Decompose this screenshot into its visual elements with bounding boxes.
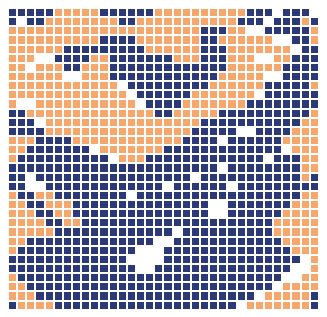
mosaic-cell xyxy=(54,99,63,108)
mosaic-cell xyxy=(63,273,72,282)
mosaic-cell xyxy=(301,26,310,35)
mosaic-cell xyxy=(17,145,26,154)
mosaic-cell xyxy=(282,255,291,264)
mosaic-cell xyxy=(127,200,136,209)
mosaic-cell xyxy=(145,173,154,182)
mosaic-cell xyxy=(237,63,246,72)
mosaic-cell xyxy=(145,26,154,35)
mosaic-cell xyxy=(81,255,90,264)
mosaic-cell xyxy=(182,163,191,172)
mosaic-cell xyxy=(99,109,108,118)
mosaic-cell xyxy=(35,163,44,172)
mosaic-cell xyxy=(163,246,172,255)
mosaic-cell xyxy=(227,35,236,44)
mosaic-cell xyxy=(45,90,54,99)
mosaic-cell xyxy=(282,35,291,44)
mosaic-cell xyxy=(227,255,236,264)
mosaic-cell xyxy=(35,237,44,246)
mosaic-cell xyxy=(209,35,218,44)
mosaic-cell xyxy=(273,17,282,26)
mosaic-cell xyxy=(282,200,291,209)
mosaic-cell xyxy=(255,45,264,54)
mosaic-cell xyxy=(45,218,54,227)
mosaic-cell xyxy=(200,8,209,17)
mosaic-cell xyxy=(45,45,54,54)
mosaic-cell xyxy=(136,26,145,35)
mosaic-cell xyxy=(282,282,291,291)
mosaic-cell xyxy=(218,26,227,35)
mosaic-cell xyxy=(17,81,26,90)
mosaic-cell xyxy=(99,200,108,209)
mosaic-cell xyxy=(90,145,99,154)
mosaic-cell xyxy=(163,99,172,108)
mosaic-cell xyxy=(63,282,72,291)
mosaic-cell xyxy=(109,264,118,273)
mosaic-cell xyxy=(227,264,236,273)
mosaic-cell xyxy=(255,273,264,282)
mosaic-cell xyxy=(264,163,273,172)
mosaic-cell xyxy=(136,191,145,200)
mosaic-cell xyxy=(200,264,209,273)
mosaic-cell xyxy=(90,136,99,145)
mosaic-cell xyxy=(227,273,236,282)
mosaic-cell xyxy=(182,173,191,182)
mosaic-cell xyxy=(282,109,291,118)
mosaic-cell xyxy=(81,81,90,90)
mosaic-cell xyxy=(45,154,54,163)
mosaic-cell xyxy=(282,154,291,163)
mosaic-cell xyxy=(301,145,310,154)
mosaic-cell xyxy=(109,72,118,81)
mosaic-cell xyxy=(63,81,72,90)
mosaic-cell xyxy=(109,255,118,264)
mosaic-cell xyxy=(99,81,108,90)
mosaic-cell xyxy=(291,63,300,72)
mosaic-cell xyxy=(99,255,108,264)
mosaic-cell xyxy=(291,264,300,273)
mosaic-cell xyxy=(246,118,255,127)
mosaic-cell xyxy=(90,291,99,300)
mosaic-cell xyxy=(45,54,54,63)
mosaic-cell xyxy=(264,109,273,118)
mosaic-cell xyxy=(118,45,127,54)
mosaic-cell xyxy=(26,81,35,90)
mosaic-cell xyxy=(273,291,282,300)
mosaic-cell xyxy=(291,54,300,63)
mosaic-cell xyxy=(145,72,154,81)
mosaic-cell xyxy=(310,72,319,81)
mosaic-cell xyxy=(17,182,26,191)
mosaic-cell xyxy=(209,118,218,127)
mosaic-cell xyxy=(118,173,127,182)
mosaic-cell xyxy=(90,163,99,172)
mosaic-cell xyxy=(246,191,255,200)
mosaic-cell xyxy=(227,54,236,63)
mosaic-cell xyxy=(17,35,26,44)
mosaic-cell xyxy=(136,99,145,108)
mosaic-cell xyxy=(255,182,264,191)
mosaic-cell xyxy=(118,136,127,145)
mosaic-cell xyxy=(291,291,300,300)
mosaic-cell xyxy=(99,99,108,108)
mosaic-cell xyxy=(264,246,273,255)
mosaic-cell xyxy=(136,255,145,264)
mosaic-cell xyxy=(246,81,255,90)
mosaic-cell xyxy=(35,218,44,227)
mosaic-cell xyxy=(163,200,172,209)
mosaic-cell xyxy=(45,8,54,17)
mosaic-cell xyxy=(99,72,108,81)
mosaic-cell xyxy=(182,81,191,90)
mosaic-cell xyxy=(310,237,319,246)
mosaic-cell xyxy=(118,63,127,72)
mosaic-cell xyxy=(8,237,17,246)
mosaic-cell xyxy=(218,154,227,163)
mosaic-cell xyxy=(273,191,282,200)
mosaic-cell xyxy=(8,173,17,182)
mosaic-cell xyxy=(182,182,191,191)
mosaic-cell xyxy=(310,191,319,200)
mosaic-cell xyxy=(173,191,182,200)
mosaic-cell xyxy=(17,246,26,255)
mosaic-cell xyxy=(136,17,145,26)
mosaic-cell xyxy=(163,45,172,54)
mosaic-cell xyxy=(282,218,291,227)
mosaic-cell xyxy=(291,127,300,136)
mosaic-cell xyxy=(17,163,26,172)
